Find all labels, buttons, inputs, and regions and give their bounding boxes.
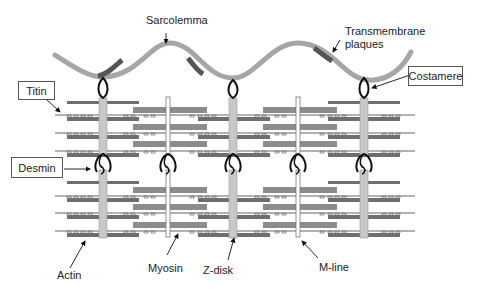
diagram-graphic bbox=[0, 0, 484, 289]
label-desmin: Desmin bbox=[11, 157, 63, 178]
label-transmembrane: Transmembrane bbox=[345, 25, 425, 38]
label-titin: Titin bbox=[18, 81, 55, 100]
label-sarcolemma: Sarcolemma bbox=[146, 14, 208, 27]
label-myosin: Myosin bbox=[148, 262, 183, 275]
label-m-line: M-line bbox=[319, 261, 349, 274]
label-costamere: Costamere bbox=[408, 66, 463, 86]
label-plaques: plaques bbox=[345, 38, 384, 51]
costamere-knots bbox=[99, 78, 369, 98]
sarcomere-diagram: Sarcolemma Transmembrane plaques Costame… bbox=[0, 0, 484, 289]
label-z-disk: Z-disk bbox=[203, 264, 233, 277]
label-actin: Actin bbox=[57, 269, 81, 282]
